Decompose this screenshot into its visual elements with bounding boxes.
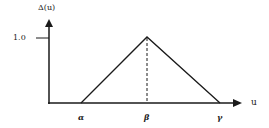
alpha-label: α bbox=[78, 112, 84, 122]
diagram-canvas bbox=[0, 0, 269, 128]
y-axis-label: Δ(u) bbox=[38, 3, 55, 12]
gamma-label: γ bbox=[217, 112, 222, 122]
y-tick-label: 1.0 bbox=[13, 33, 26, 42]
triangle-membership-curve bbox=[81, 37, 220, 103]
x-axis-arrow-icon bbox=[233, 99, 242, 107]
beta-label: β bbox=[144, 112, 149, 122]
y-axis-arrow-icon bbox=[45, 19, 53, 27]
x-axis-label: u bbox=[251, 97, 257, 107]
